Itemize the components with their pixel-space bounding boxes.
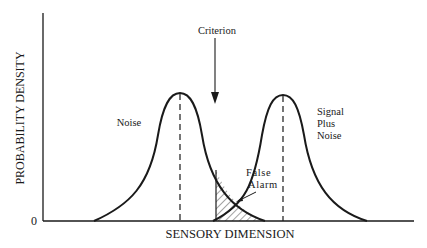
criterion-arrow-head-icon bbox=[211, 92, 219, 104]
x-axis-label: SENSORY DIMENSION bbox=[165, 227, 294, 241]
criterion-label: Criterion bbox=[198, 25, 237, 36]
false-alarm-label-line2: Alarm bbox=[248, 179, 278, 190]
signal-label-line1: Signal bbox=[317, 106, 344, 117]
noise-label: Noise bbox=[117, 117, 142, 128]
false-alarm-label-line1: False bbox=[246, 167, 271, 178]
false-alarm-arrow-head-icon bbox=[236, 197, 243, 202]
sdt-diagram: PROBABILITY DENSITY SENSORY DIMENSION 0 … bbox=[0, 0, 427, 248]
origin-label: 0 bbox=[31, 214, 37, 228]
signal-label-line2: Plus bbox=[317, 118, 335, 129]
y-axis-label: PROBABILITY DENSITY bbox=[13, 51, 27, 185]
signal-label-line3: Noise bbox=[317, 130, 342, 141]
